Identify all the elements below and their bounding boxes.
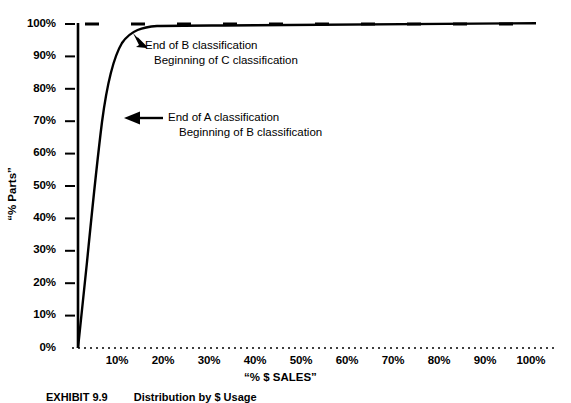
x-tick-label: 70% xyxy=(370,354,416,366)
annotation-a-to-b-line1: End of A classification xyxy=(168,111,279,123)
distribution-curve xyxy=(78,23,536,348)
caption-text: Distribution by $ Usage xyxy=(134,391,257,403)
a-to-b-arrow-icon xyxy=(124,112,163,125)
y-axis-title-wrapper: “% Parts” xyxy=(2,159,20,229)
y-tick-label: 100% xyxy=(12,17,56,29)
annotation-b-to-c-line1: End of B classification xyxy=(145,39,258,51)
annotation-a-to-b-line2: Beginning of B classification xyxy=(168,125,322,140)
y-tick-label: 80% xyxy=(12,82,56,94)
y-axis-ticks xyxy=(65,24,75,316)
annotation-a-to-b: End of A classification Beginning of B c… xyxy=(168,110,322,140)
y-tick-label: 0% xyxy=(12,341,56,353)
x-axis-title: “% $ SALES” xyxy=(244,371,317,383)
figure-caption: EXHIBIT 9.9Distribution by $ Usage xyxy=(46,391,257,403)
x-tick-label: 100% xyxy=(508,354,554,366)
y-tick-label: 70% xyxy=(12,114,56,126)
x-tick-label: 30% xyxy=(186,354,232,366)
x-tick-label: 40% xyxy=(232,354,278,366)
x-tick-label: 10% xyxy=(94,354,140,366)
x-tick-label: 90% xyxy=(462,354,508,366)
annotation-b-to-c: End of B classification Beginning of C c… xyxy=(145,38,298,68)
x-tick-label: 60% xyxy=(324,354,370,366)
y-tick-label: 10% xyxy=(12,308,56,320)
x-tick-label: 20% xyxy=(140,354,186,366)
y-tick-label: 90% xyxy=(12,49,56,61)
x-tick-label: 80% xyxy=(416,354,462,366)
y-axis-title: “% Parts” xyxy=(6,167,18,221)
caption-exhibit-number: EXHIBIT 9.9 xyxy=(46,391,108,403)
annotation-b-to-c-line2: Beginning of C classification xyxy=(145,53,298,68)
y-tick-label: 60% xyxy=(12,146,56,158)
y-tick-label: 30% xyxy=(12,243,56,255)
y-tick-label: 20% xyxy=(12,276,56,288)
x-tick-label: 50% xyxy=(278,354,324,366)
